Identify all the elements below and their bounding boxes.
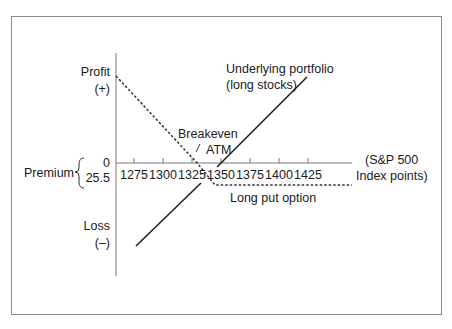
- loss-sign-label: (–): [60, 236, 110, 251]
- x-axis-label-line2: Index points): [356, 169, 428, 184]
- x-tick-label: 1275: [120, 168, 148, 182]
- breakeven-pointer: [196, 144, 200, 152]
- breakeven-annotation: Breakeven: [178, 127, 238, 142]
- x-tick-label: 1325: [178, 168, 206, 182]
- x-tick-label: 1375: [236, 168, 264, 182]
- underlying-annotation-line2: (long stocks): [226, 78, 297, 93]
- underlying-annotation-line1: Underlying portfolio: [226, 62, 334, 77]
- profit-sign-label: (+): [60, 82, 110, 97]
- premium-label: Premium: [24, 166, 74, 181]
- underlying-line-lower: [136, 183, 201, 246]
- x-tick-label: 1350: [207, 168, 235, 182]
- loss-label: Loss: [60, 219, 110, 234]
- x-tick-label: 1400: [265, 168, 293, 182]
- premium-value-label: 25.5: [80, 171, 110, 186]
- atm-annotation: ATM: [206, 143, 231, 158]
- x-tick-label: 1300: [149, 168, 177, 182]
- x-axis-label-line1: (S&P 500: [365, 153, 418, 168]
- zero-label: 0: [80, 156, 110, 171]
- long-put-annotation: Long put option: [230, 191, 316, 206]
- x-tick-label: 1425: [294, 168, 322, 182]
- profit-label: Profit: [60, 65, 110, 80]
